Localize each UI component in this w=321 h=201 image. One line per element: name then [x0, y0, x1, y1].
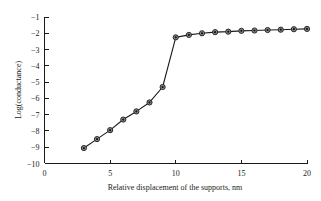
y-tick-label: −3 — [31, 46, 40, 55]
data-point-core — [109, 129, 111, 131]
y-tick-label: −8 — [31, 127, 40, 136]
data-point-core — [201, 32, 203, 34]
data-point-core — [83, 147, 85, 149]
y-tick-label: −6 — [31, 94, 40, 103]
y-tick-label: −2 — [31, 29, 40, 38]
x-tick-label: 0 — [43, 169, 47, 178]
data-point-core — [253, 29, 255, 31]
data-point-core — [280, 29, 282, 31]
data-point-core — [227, 31, 229, 33]
data-point-core — [135, 110, 137, 112]
y-tick-label: −10 — [27, 160, 40, 169]
x-tick-label: 15 — [237, 169, 245, 178]
chart-figure: −1−2−3−4−5−6−7−8−9−10 Log(conductance) 0… — [0, 0, 321, 201]
y-tick-label: −7 — [31, 111, 40, 120]
y-tick-label: −4 — [31, 62, 40, 71]
y-tick-label: −9 — [31, 143, 40, 152]
data-point-core — [162, 86, 164, 88]
y-tick-label: −5 — [31, 78, 40, 87]
data-point-core — [122, 118, 124, 120]
data-point-core — [267, 29, 269, 31]
data-point-core — [293, 28, 295, 30]
x-axis-title: Relative displacement of the supports, n… — [108, 183, 243, 192]
data-point-core — [188, 34, 190, 36]
x-tick-label: 20 — [303, 169, 311, 178]
data-point-core — [96, 138, 98, 140]
data-point-core — [240, 30, 242, 32]
x-tick-label: 5 — [108, 169, 112, 178]
x-tick-label: 10 — [172, 169, 180, 178]
y-tick-label: −1 — [31, 13, 40, 22]
data-point-core — [214, 31, 216, 33]
data-point-core — [148, 101, 150, 103]
conductance-line-chart: −1−2−3−4−5−6−7−8−9−10 Log(conductance) 0… — [0, 0, 321, 201]
data-point-core — [175, 36, 177, 38]
y-axis-title: Log(conductance) — [14, 61, 23, 120]
data-point-core — [306, 28, 308, 30]
